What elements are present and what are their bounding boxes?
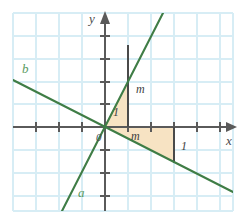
triangle-a-run-label: 1 xyxy=(113,106,119,118)
x-axis-arrowhead xyxy=(226,122,237,132)
origin-label: 0 xyxy=(96,132,102,143)
line-a-label: a xyxy=(78,186,85,199)
line-b-label: b xyxy=(22,62,29,75)
plot-canvas xyxy=(0,0,241,215)
y-axis-label: y xyxy=(89,12,95,25)
triangle-a-rise-label: m xyxy=(136,83,145,95)
x-axis-label: x xyxy=(226,134,232,147)
triangle-b-rise-label: 1 xyxy=(181,140,187,152)
coordinate-plane-figure: y x 0 a b 1 m m 1 xyxy=(0,0,241,215)
triangle-b-run-label: m xyxy=(131,130,140,142)
